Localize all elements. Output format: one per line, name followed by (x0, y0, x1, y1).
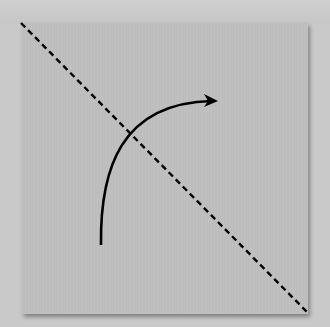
fold-diagram (0, 0, 330, 327)
fold-arrow-curve (101, 101, 212, 245)
fold-line-dashed (21, 23, 308, 313)
